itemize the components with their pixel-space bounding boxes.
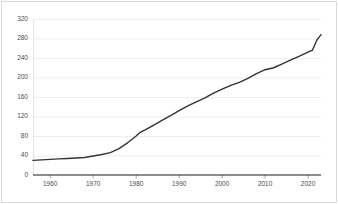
- y-axis-tick-label: 240: [17, 54, 28, 61]
- x-axis-tick-label: 2010: [258, 180, 273, 187]
- y-axis-tick-labels: 04080120160200240280320: [17, 15, 28, 178]
- x-axis-tick-label: 2000: [215, 180, 230, 187]
- x-axis-tick-label: 1980: [129, 180, 144, 187]
- y-axis-tick-label: 0: [24, 171, 28, 178]
- y-axis-tick-label: 80: [21, 132, 29, 139]
- y-axis-tick-label: 40: [21, 151, 29, 158]
- x-axis-tick-labels: 1960197019801990200020102020: [43, 180, 316, 187]
- chart-figure: 04080120160200240280320 1960197019801990…: [0, 0, 338, 204]
- x-axis-tick-label: 2020: [301, 180, 316, 187]
- line-chart-plot: 04080120160200240280320 1960197019801990…: [0, 0, 338, 204]
- gridlines-group: [33, 20, 321, 157]
- y-axis-tick-label: 200: [17, 73, 28, 80]
- y-axis-tick-label: 160: [17, 93, 28, 100]
- x-axis-tick-label: 1990: [172, 180, 187, 187]
- y-axis-tick-label: 280: [17, 34, 28, 41]
- y-axis-tick-label: 120: [17, 112, 28, 119]
- x-axis-tick-label: 1960: [43, 180, 58, 187]
- x-axis-tick-label: 1970: [86, 180, 101, 187]
- y-axis-tick-label: 320: [17, 15, 28, 22]
